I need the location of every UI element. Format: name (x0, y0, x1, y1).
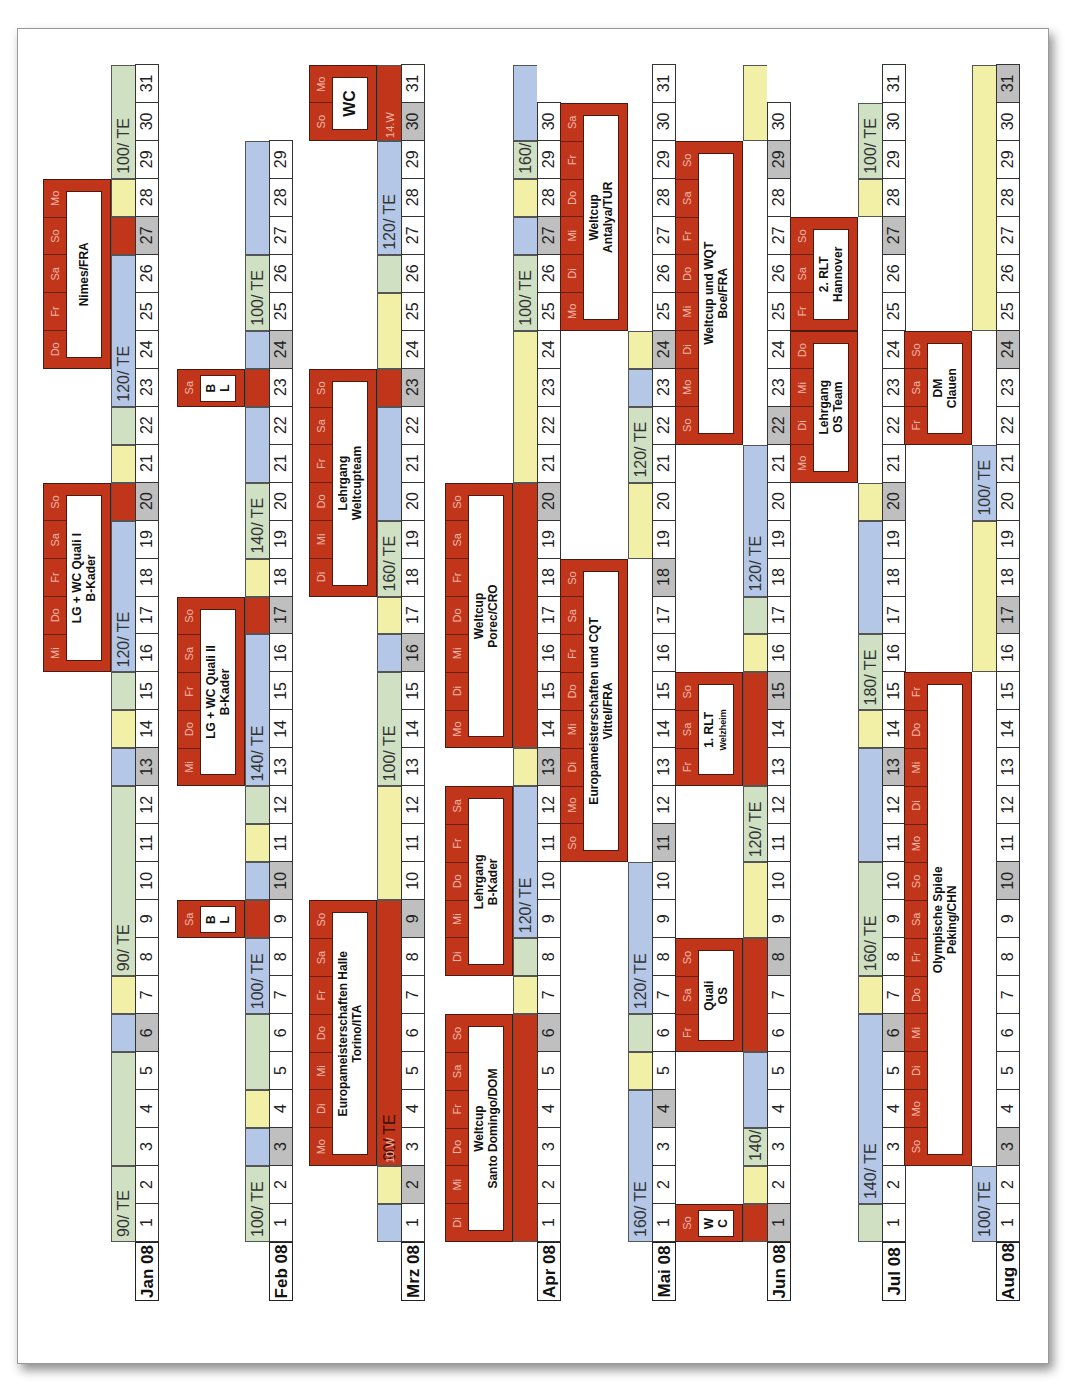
day-cell[interactable]: 13 (537, 747, 561, 786)
day-cell[interactable]: 15 (767, 671, 791, 710)
day-cell[interactable]: 25 (652, 292, 676, 331)
day-cell[interactable]: 17 (401, 596, 425, 635)
day-cell[interactable]: 19 (401, 520, 425, 559)
day-cell[interactable]: 13 (269, 747, 293, 786)
day-cell[interactable]: 28 (996, 178, 1020, 217)
day-cell[interactable]: 20 (652, 482, 676, 521)
day-cell[interactable]: 24 (767, 330, 791, 369)
day-cell[interactable]: 4 (767, 1089, 791, 1128)
day-cell[interactable]: 25 (996, 292, 1020, 331)
day-cell[interactable]: 7 (767, 975, 791, 1014)
day-cell[interactable]: 5 (401, 1051, 425, 1090)
day-cell[interactable]: 27 (537, 216, 561, 255)
day-cell[interactable]: 24 (652, 330, 676, 369)
day-cell[interactable]: 22 (652, 406, 676, 445)
day-cell[interactable]: 19 (135, 520, 159, 559)
event-block[interactable]: DoFrSaSoMoNimes/FRA (43, 179, 111, 369)
day-cell[interactable]: 20 (401, 482, 425, 521)
day-cell[interactable]: 7 (269, 975, 293, 1014)
day-cell[interactable]: 26 (996, 254, 1020, 293)
day-cell[interactable]: 31 (996, 64, 1020, 103)
day-cell[interactable]: 2 (767, 1165, 791, 1204)
day-cell[interactable]: 3 (882, 1127, 906, 1166)
day-cell[interactable]: 11 (401, 823, 425, 862)
event-block[interactable]: DiMiDoFrSaLehrgangB-Kader (445, 786, 513, 976)
day-cell[interactable]: 4 (135, 1089, 159, 1128)
day-cell[interactable]: 30 (537, 102, 561, 141)
day-cell[interactable]: 11 (269, 823, 293, 862)
day-cell[interactable]: 2 (996, 1165, 1020, 1204)
day-cell[interactable]: 31 (882, 64, 906, 103)
day-cell[interactable]: 17 (882, 596, 906, 635)
day-cell[interactable]: 2 (401, 1165, 425, 1204)
day-cell[interactable]: 25 (401, 292, 425, 331)
day-cell[interactable]: 8 (652, 937, 676, 976)
day-cell[interactable]: 28 (767, 178, 791, 217)
event-block[interactable]: MoDiMiDoFrSaWeltcupAntalya/TUR (560, 103, 628, 331)
day-cell[interactable]: 23 (401, 368, 425, 407)
day-cell[interactable]: 25 (537, 292, 561, 331)
day-cell[interactable]: 16 (652, 633, 676, 672)
day-cell[interactable]: 26 (652, 254, 676, 293)
day-cell[interactable]: 12 (135, 785, 159, 824)
day-cell[interactable]: 21 (537, 444, 561, 483)
day-cell[interactable]: 5 (269, 1051, 293, 1090)
day-cell[interactable]: 29 (652, 140, 676, 179)
day-cell[interactable]: 29 (767, 140, 791, 179)
day-cell[interactable]: 2 (269, 1165, 293, 1204)
day-cell[interactable]: 5 (767, 1051, 791, 1090)
day-cell[interactable]: 14 (996, 709, 1020, 748)
day-cell[interactable]: 27 (401, 216, 425, 255)
day-cell[interactable]: 24 (401, 330, 425, 369)
day-cell[interactable]: 15 (996, 671, 1020, 710)
day-cell[interactable]: 12 (269, 785, 293, 824)
day-cell[interactable]: 31 (401, 64, 425, 103)
day-cell[interactable]: 8 (135, 937, 159, 976)
day-cell[interactable]: 25 (882, 292, 906, 331)
day-cell[interactable]: 6 (652, 1013, 676, 1052)
day-cell[interactable]: 18 (882, 558, 906, 597)
day-cell[interactable]: 13 (401, 747, 425, 786)
day-cell[interactable]: 9 (652, 899, 676, 938)
day-cell[interactable]: 6 (882, 1013, 906, 1052)
day-cell[interactable]: 10 (537, 861, 561, 900)
event-block[interactable]: SoMoDiMiDoFrSaSoMoDiMiDoFrOlympische Spi… (904, 672, 972, 1166)
day-cell[interactable]: 2 (135, 1165, 159, 1204)
day-cell[interactable]: 13 (652, 747, 676, 786)
day-cell[interactable]: 23 (882, 368, 906, 407)
day-cell[interactable]: 14 (135, 709, 159, 748)
day-cell[interactable]: 24 (882, 330, 906, 369)
day-cell[interactable]: 18 (401, 558, 425, 597)
day-cell[interactable]: 9 (269, 899, 293, 938)
day-cell[interactable]: 12 (401, 785, 425, 824)
day-cell[interactable]: 19 (882, 520, 906, 559)
day-cell[interactable]: 1 (401, 1203, 425, 1242)
day-cell[interactable]: 16 (996, 633, 1020, 672)
day-cell[interactable]: 13 (767, 747, 791, 786)
event-block[interactable]: MiDoFrSaSoLG + WC Quali IB-Kader (43, 483, 111, 673)
day-cell[interactable]: 24 (996, 330, 1020, 369)
day-cell[interactable]: 3 (269, 1127, 293, 1166)
day-cell[interactable]: 29 (996, 140, 1020, 179)
day-cell[interactable]: 29 (269, 140, 293, 179)
day-cell[interactable]: 14 (537, 709, 561, 748)
day-cell[interactable]: 25 (767, 292, 791, 331)
day-cell[interactable]: 8 (882, 937, 906, 976)
day-cell[interactable]: 29 (401, 140, 425, 179)
day-cell[interactable]: 12 (996, 785, 1020, 824)
day-cell[interactable]: 4 (882, 1089, 906, 1128)
day-cell[interactable]: 3 (401, 1127, 425, 1166)
day-cell[interactable]: 21 (135, 444, 159, 483)
day-cell[interactable]: 26 (401, 254, 425, 293)
day-cell[interactable]: 3 (652, 1127, 676, 1166)
day-cell[interactable]: 21 (882, 444, 906, 483)
event-block[interactable]: FrSaSo2. RLTHannover (790, 217, 858, 331)
day-cell[interactable]: 18 (135, 558, 159, 597)
day-cell[interactable]: 2 (882, 1165, 906, 1204)
event-block[interactable]: MoDiMiDoFrSaSoEuropameisterschaften Hall… (309, 900, 377, 1166)
day-cell[interactable]: 25 (135, 292, 159, 331)
day-cell[interactable]: 26 (882, 254, 906, 293)
day-cell[interactable]: 21 (767, 444, 791, 483)
day-cell[interactable]: 16 (269, 633, 293, 672)
day-cell[interactable]: 27 (135, 216, 159, 255)
